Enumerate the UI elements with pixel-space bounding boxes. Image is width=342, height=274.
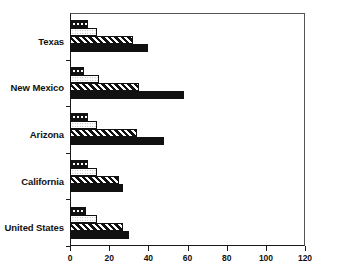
y-axis-label: Arizona <box>30 129 64 140</box>
bar <box>70 75 99 83</box>
x-axis-tick-label: 120 <box>290 253 320 263</box>
x-axis-tick <box>109 246 110 251</box>
bar-group <box>70 106 305 153</box>
x-axis-tick <box>227 246 228 251</box>
y-axis-label: New Mexico <box>11 82 64 93</box>
x-axis-tick <box>70 246 71 251</box>
bar-group <box>70 60 305 107</box>
x-axis-tick-label: 20 <box>94 253 124 263</box>
bar <box>70 223 123 231</box>
bar-group <box>70 199 305 246</box>
y-axis-tick <box>66 106 71 107</box>
bar <box>70 44 148 52</box>
x-axis-tick <box>148 246 149 251</box>
y-axis-label: Texas <box>38 36 64 47</box>
x-axis-tick-label: 40 <box>133 253 163 263</box>
bar <box>70 113 88 121</box>
bar <box>70 67 84 75</box>
bar <box>70 215 97 223</box>
x-axis-tick-label: 0 <box>55 253 85 263</box>
bar-group <box>70 153 305 200</box>
y-axis-label: California <box>21 176 64 187</box>
bar <box>70 83 139 91</box>
x-axis-tick-label: 100 <box>251 253 281 263</box>
bar <box>70 91 184 99</box>
x-axis-tick-label: 60 <box>173 253 203 263</box>
x-axis-tick <box>188 246 189 251</box>
bar <box>70 121 97 129</box>
bar <box>70 160 88 168</box>
bar-chart: TexasNew MexicoArizonaCaliforniaUnited S… <box>0 0 342 274</box>
bar <box>70 168 97 176</box>
bar <box>70 129 137 137</box>
x-axis-tick-label: 80 <box>212 253 242 263</box>
bar <box>70 28 97 36</box>
bar-group <box>70 13 305 60</box>
y-axis-tick <box>66 199 71 200</box>
bar <box>70 231 129 239</box>
y-axis-tick <box>66 153 71 154</box>
bar <box>70 176 119 184</box>
x-axis-tick <box>266 246 267 251</box>
bar <box>70 184 123 192</box>
bar <box>70 36 133 44</box>
bar <box>70 207 86 215</box>
bar-groups <box>70 13 305 246</box>
bar <box>70 20 88 28</box>
x-axis-tick <box>305 246 306 251</box>
y-axis-label: United States <box>5 222 64 233</box>
y-axis-tick <box>66 60 71 61</box>
bar <box>70 137 164 145</box>
